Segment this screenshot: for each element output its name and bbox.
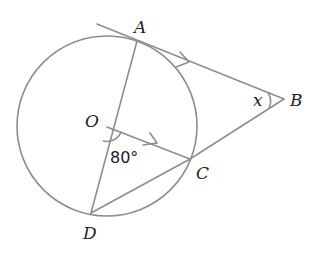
point-label-o: O (85, 111, 99, 131)
point-label-c: C (196, 163, 209, 183)
point-label-d: D (82, 223, 97, 243)
point-label-a: A (132, 17, 146, 37)
angle-label-x: x (253, 90, 263, 110)
angle-arc-b (268, 93, 271, 109)
point-label-b: B (289, 90, 303, 110)
parallel-arrow-icon (176, 52, 189, 67)
parallel-arrow-icon (143, 133, 157, 145)
geometry-diagram: A B C D O x 80° (0, 0, 324, 254)
circle (17, 36, 197, 216)
angle-label-80: 80° (110, 148, 138, 167)
